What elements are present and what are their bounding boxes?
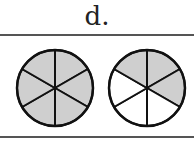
problem-label: d.: [0, 0, 194, 32]
left-circle: [17, 50, 93, 126]
bottom-divider: [0, 136, 194, 138]
fraction-circles-figure: [0, 36, 194, 136]
right-circle: [109, 50, 185, 126]
